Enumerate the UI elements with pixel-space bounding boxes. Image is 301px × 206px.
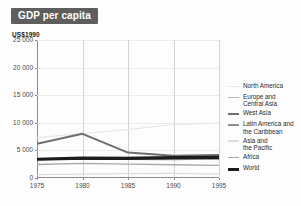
chart-title-banner: GDP per capita: [11, 8, 98, 24]
legend-item-label: Latin America and the Caribbean: [243, 120, 293, 134]
legend-swatch-icon: [228, 97, 239, 98]
x-tick-label: 1975: [22, 182, 52, 189]
x-tick-mark: [83, 178, 84, 180]
chart-container: GDP per capita US$1990 05 00010 00015 00…: [0, 0, 301, 206]
chart-legend: North AmericaEurope and Central AsiaWest…: [228, 82, 300, 175]
x-tick-label: 1980: [68, 182, 98, 189]
legend-item-label: World: [243, 164, 259, 171]
legend-item[interactable]: Europe and Central Asia: [228, 93, 300, 107]
legend-swatch-icon: [228, 157, 239, 158]
series-line: [37, 173, 219, 174]
y-tick-label: 25 000: [1, 36, 33, 43]
x-tick-mark: [174, 178, 175, 180]
legend-item-label: Europe and Central Asia: [243, 93, 277, 107]
legend-item[interactable]: North America: [228, 82, 300, 91]
legend-item-label: North America: [243, 82, 283, 89]
x-tick-mark: [219, 178, 220, 180]
x-tick-label: 1995: [204, 182, 234, 189]
y-tick-label: 5 000: [1, 146, 33, 153]
x-tick-mark: [128, 178, 129, 180]
series-line: [37, 163, 219, 165]
legend-item[interactable]: West Asia: [228, 109, 300, 118]
legend-item[interactable]: Africa: [228, 153, 300, 162]
legend-swatch-icon: [228, 140, 239, 141]
series-line: [37, 157, 219, 159]
series-lines: [37, 40, 219, 178]
legend-item-label: Asia and the Pacific: [243, 137, 272, 151]
y-tick-label: 15 000: [1, 91, 33, 98]
y-tick-label: 0: [1, 174, 33, 181]
plot-area: [37, 40, 219, 178]
x-tick-label: 1985: [113, 182, 143, 189]
x-tick-label: 1990: [159, 182, 189, 189]
legend-item-label: West Asia: [243, 109, 271, 116]
page-title: GDP per capita: [18, 10, 91, 21]
legend-item[interactable]: World: [228, 164, 300, 173]
legend-swatch-icon: [228, 86, 239, 87]
legend-item[interactable]: Latin America and the Caribbean: [228, 120, 300, 134]
legend-item-label: Africa: [243, 153, 259, 160]
legend-swatch-icon: [228, 113, 239, 115]
x-tick-mark: [37, 178, 38, 180]
legend-swatch-icon: [228, 124, 239, 126]
series-line: [37, 134, 219, 156]
legend-swatch-icon: [228, 168, 239, 171]
legend-item[interactable]: Asia and the Pacific: [228, 137, 300, 151]
vgridline: [219, 40, 220, 177]
series-line: [37, 123, 219, 138]
y-tick-label: 10 000: [1, 119, 33, 126]
y-tick-label: 20 000: [1, 64, 33, 71]
